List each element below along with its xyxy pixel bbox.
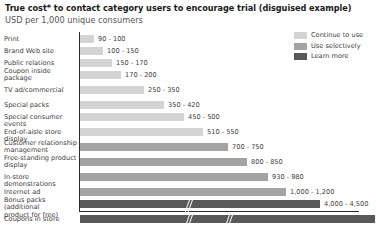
bar[interactable] — [80, 47, 103, 55]
chart-title: True cost* to contact category users to … — [5, 3, 352, 13]
bar-row[interactable]: End-of-aisle store display510 - 550 — [0, 126, 376, 138]
bar-row[interactable]: Coupon insidepackage170 - 200 — [0, 69, 376, 81]
axis-break-marker — [185, 199, 193, 212]
bar-row[interactable]: Special consumer events450 - 500 — [0, 111, 376, 123]
bar-row[interactable]: Special packs350 - 420 — [0, 99, 376, 111]
category-label: Customer relationshipmanagement — [4, 140, 77, 155]
bar[interactable] — [80, 35, 94, 43]
bar-row[interactable]: TV ad/commercial250 - 350 — [0, 84, 376, 96]
category-label: Coupon insidepackage — [4, 68, 77, 83]
bar[interactable] — [80, 128, 203, 136]
bar[interactable] — [80, 188, 286, 196]
bar-value-label: 4,000 - 4,500 — [324, 200, 368, 208]
bar-value-label: 170 - 200 — [125, 71, 157, 79]
category-label: Print — [4, 36, 77, 43]
bar-value-label: 930 - 980 — [272, 173, 304, 181]
bar-row[interactable]: Customer relationshipmanagement700 - 750 — [0, 141, 376, 153]
bar-row[interactable]: Free-standing productdisplay800 - 850 — [0, 156, 376, 168]
bar-row[interactable]: Coupons in store10,000 - 12,000 — [0, 213, 376, 225]
category-label: Brand Web site — [4, 48, 77, 55]
bar[interactable] — [80, 113, 184, 121]
bar-value-label: 510 - 550 — [207, 128, 239, 136]
bar[interactable] — [80, 158, 247, 166]
plot-area: Print90 - 100Brand Web site100 - 150Publ… — [0, 30, 376, 214]
bar-value-label: 700 - 750 — [232, 143, 264, 151]
bar-value-label: 90 - 100 — [98, 35, 126, 43]
category-label: TV ad/commercial — [4, 87, 77, 94]
bar[interactable] — [80, 173, 268, 181]
bar[interactable] — [80, 143, 228, 151]
category-label: Coupons in store — [4, 216, 77, 223]
bar-row[interactable]: In-store demonstrations930 - 980 — [0, 171, 376, 183]
chart-root: True cost* to contact category users to … — [0, 0, 376, 229]
bar-value-label: 1,000 - 1,200 — [290, 188, 334, 196]
bar[interactable] — [80, 101, 164, 109]
bar-value-label: 150 - 170 — [116, 59, 148, 67]
category-axis-line — [79, 211, 359, 212]
bar-row[interactable]: Bonus packs (additionalproduct for free)… — [0, 198, 376, 210]
axis-break-marker — [225, 214, 233, 227]
bar-value-label: 450 - 500 — [188, 113, 220, 121]
category-label: Internet ad — [4, 189, 77, 196]
bar-row[interactable]: Print90 - 100 — [0, 33, 376, 45]
axis-break-marker — [185, 214, 193, 227]
category-label: Free-standing productdisplay — [4, 155, 77, 170]
chart-subtitle: USD per 1,000 unique consumers — [5, 15, 143, 25]
bar[interactable] — [80, 86, 144, 94]
bar-value-label: 100 - 150 — [107, 47, 139, 55]
bar-value-label: 250 - 350 — [148, 86, 180, 94]
bar[interactable] — [80, 71, 121, 79]
bar[interactable] — [80, 200, 320, 208]
category-label: Public relations — [4, 60, 77, 67]
bar-value-label: 800 - 850 — [251, 158, 283, 166]
bar[interactable] — [80, 59, 112, 67]
bar-row[interactable]: Brand Web site100 - 150 — [0, 45, 376, 57]
category-label: Special packs — [4, 102, 77, 109]
bar-value-label: 350 - 420 — [168, 101, 200, 109]
